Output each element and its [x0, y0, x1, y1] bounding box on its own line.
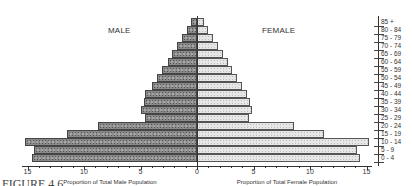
female-bar: [197, 122, 294, 130]
x-tick: [163, 166, 164, 168]
x-tick: [95, 166, 96, 168]
male-bar: [157, 74, 197, 82]
age-group-label: 70 - 74: [381, 42, 401, 50]
x-tick: [333, 166, 334, 168]
female-bar: [197, 42, 218, 50]
male-bar: [168, 58, 197, 66]
x-tick: [186, 166, 187, 168]
male-title: MALE: [108, 26, 131, 35]
male-bar: [187, 26, 197, 34]
female-bar: [197, 114, 249, 122]
male-bar: [145, 114, 197, 122]
female-bar: [197, 154, 360, 162]
x-tick: [141, 166, 142, 170]
female-title: FEMALE: [262, 26, 295, 35]
x-tick: [208, 166, 209, 168]
x-tick: [220, 166, 221, 168]
age-group-label: 50 - 54: [381, 74, 401, 82]
female-bar: [197, 50, 223, 58]
female-bar: [197, 90, 247, 98]
age-group-label: 30 - 34: [381, 106, 401, 114]
female-bar: [197, 106, 252, 114]
x-tick: [355, 166, 356, 168]
female-bar: [197, 66, 232, 74]
x-tick: [231, 166, 232, 168]
male-bar: [67, 130, 197, 138]
age-group-label: 5 - 9: [381, 146, 394, 154]
male-bar: [144, 98, 197, 106]
x-tick: [299, 166, 300, 168]
x-tick: [39, 166, 40, 168]
x-tick: [84, 166, 85, 170]
male-bar: [172, 50, 197, 58]
male-bar: [162, 66, 197, 74]
x-tick: [310, 166, 311, 170]
figure-caption: FIGURE 4.6: [2, 177, 63, 186]
male-bar: [25, 138, 197, 146]
age-group-label: 15 - 19: [381, 130, 401, 138]
x-tick: [344, 166, 345, 168]
x-tick: [129, 166, 130, 168]
male-bar: [182, 34, 197, 42]
age-group-label: 85 +: [381, 18, 394, 26]
age-group-label: 35 - 39: [381, 98, 401, 106]
x-tick: [50, 166, 51, 168]
x-tick: [61, 166, 62, 168]
female-bar: [197, 130, 324, 138]
x-tick: [197, 166, 198, 170]
x-tick: [174, 166, 175, 168]
male-bar: [32, 154, 197, 162]
male-bar: [141, 106, 198, 114]
male-bar: [145, 90, 197, 98]
female-bar: [197, 82, 242, 90]
population-pyramid-chart: MALE FEMALE 15105051015 Proportion of To…: [0, 0, 413, 186]
x-tick: [152, 166, 153, 168]
age-group-label: 0 - 4: [381, 154, 394, 162]
x-tick: [367, 166, 368, 170]
age-group-label: 75 - 79: [381, 34, 401, 42]
male-x-axis-label: Proportion of Total Male Population: [63, 179, 156, 185]
x-tick: [287, 166, 288, 168]
age-group-axis: [378, 16, 379, 166]
female-bar: [197, 26, 208, 34]
x-tick: [73, 166, 74, 168]
x-tick: [254, 166, 255, 170]
age-group-label: 80 - 84: [381, 26, 401, 34]
age-group-label: 25 - 29: [381, 114, 401, 122]
age-group-label: 60 - 64: [381, 58, 401, 66]
age-group-label: 10 - 14: [381, 138, 401, 146]
age-group-label: 65 - 69: [381, 50, 401, 58]
age-group-label: 20 - 24: [381, 122, 401, 130]
female-bar: [197, 58, 228, 66]
age-group-label: 40 - 44: [381, 90, 401, 98]
age-tick: [374, 162, 384, 163]
x-tick: [242, 166, 243, 168]
female-bar: [197, 146, 357, 154]
center-axis: [197, 16, 198, 166]
female-bar: [197, 18, 204, 26]
female-bar: [197, 138, 369, 146]
x-tick: [28, 166, 29, 170]
female-x-axis-label: Proportion of Total Female Population: [237, 179, 337, 185]
female-bar: [197, 98, 250, 106]
x-tick: [321, 166, 322, 168]
female-bar: [197, 34, 213, 42]
x-tick: [276, 166, 277, 168]
male-bar: [152, 82, 197, 90]
male-bar: [177, 42, 197, 50]
x-tick: [118, 166, 119, 168]
age-group-label: 45 - 49: [381, 82, 401, 90]
x-tick: [265, 166, 266, 168]
male-bar: [98, 122, 197, 130]
age-group-label: 55 - 59: [381, 66, 401, 74]
x-tick: [107, 166, 108, 168]
female-bar: [197, 74, 237, 82]
male-bar: [34, 146, 197, 154]
